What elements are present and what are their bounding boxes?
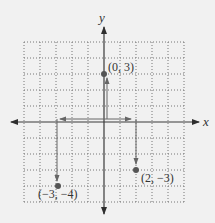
points bbox=[55, 71, 139, 189]
point-label-0-3: (0, 3) bbox=[108, 60, 134, 74]
movement-arrows bbox=[57, 78, 136, 181]
point-0-3 bbox=[101, 71, 107, 77]
point-label-2-neg3: (2, −3) bbox=[141, 171, 174, 185]
point-label-neg3-neg4: (−3, −4) bbox=[38, 187, 78, 201]
coordinate-plane: x y (0, 3) (2, −3) (−3, −4) bbox=[0, 0, 215, 223]
y-axis-label: y bbox=[97, 10, 105, 25]
point-2-neg3 bbox=[133, 167, 139, 173]
x-axis-label: x bbox=[202, 114, 209, 129]
